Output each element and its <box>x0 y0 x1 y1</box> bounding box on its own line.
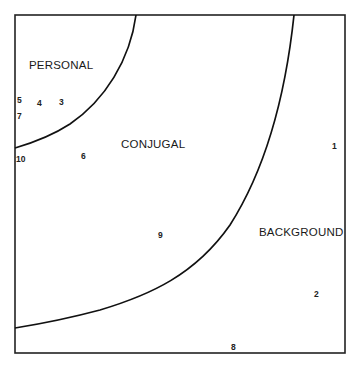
region-label-conjugal: CONJUGAL <box>121 138 186 150</box>
point-label-6: 6 <box>81 151 86 161</box>
point-label-10: 10 <box>16 154 26 164</box>
point-label-2: 2 <box>314 289 319 299</box>
point-label-4: 4 <box>37 98 42 108</box>
region-label-personal: PERSONAL <box>29 59 94 71</box>
point-label-7: 7 <box>17 111 22 121</box>
point-label-5: 5 <box>17 95 22 105</box>
personal-conjugal-boundary <box>15 15 136 148</box>
point-label-8: 8 <box>231 342 236 352</box>
point-label-3: 3 <box>59 97 64 107</box>
point-label-1: 1 <box>332 141 337 151</box>
nested-regions-diagram: PERSONAL CONJUGAL BACKGROUND 1 2 3 4 5 6… <box>0 0 357 365</box>
region-label-background: BACKGROUND <box>259 226 343 238</box>
point-label-9: 9 <box>158 230 163 240</box>
